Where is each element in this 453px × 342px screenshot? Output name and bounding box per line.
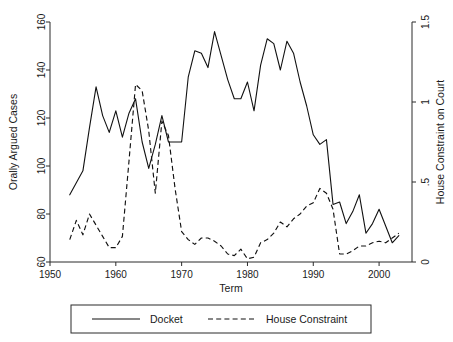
y2-tick-label: 1: [420, 99, 431, 105]
legend-label-docket: Docket: [150, 313, 183, 325]
series-line-house-constraint: [70, 84, 399, 258]
y-tick-label: 120: [36, 109, 47, 126]
y-tick-label: 140: [36, 61, 47, 78]
chart-legend: Docket House Constraint: [71, 305, 371, 333]
y2-tick-label: 1.5: [420, 15, 431, 29]
x-tick-label: 1960: [105, 269, 128, 280]
line-chart: 6080100120140160 19501960197019801990200…: [0, 0, 453, 342]
x-axis-title: Term: [219, 282, 243, 294]
x-tick-label: 1990: [302, 269, 325, 280]
x-tick-label: 1950: [39, 269, 62, 280]
chart-figure: 6080100120140160 19501960197019801990200…: [0, 0, 453, 342]
legend-label-house-constraint: House Constraint: [266, 313, 347, 325]
y-tick-label: 80: [36, 208, 47, 220]
y-axis-ticks: 6080100120140160: [36, 13, 51, 267]
y-tick-label: 60: [36, 256, 47, 268]
x-axis-ticks: 195019601970198019902000: [39, 262, 391, 280]
y-axis-title: Orally Argued Cases: [7, 94, 19, 190]
x-tick-label: 1980: [236, 269, 259, 280]
y2-tick-label: 0: [420, 259, 431, 265]
x-tick-label: 1970: [171, 269, 194, 280]
y-tick-label: 100: [36, 157, 47, 174]
y2-axis-ticks: 0.511.5: [412, 15, 431, 265]
y-tick-label: 160: [36, 13, 47, 30]
x-tick-label: 2000: [368, 269, 391, 280]
series-line-docket: [70, 32, 399, 243]
y2-tick-label: .5: [420, 177, 431, 186]
y2-axis-title: House Constraint on Court: [434, 80, 446, 204]
